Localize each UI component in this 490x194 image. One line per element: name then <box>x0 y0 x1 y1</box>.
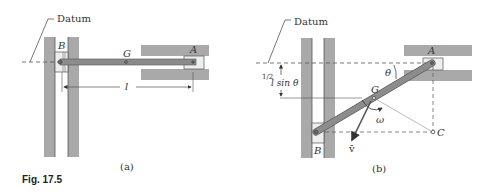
point-c <box>431 130 435 134</box>
panel-b: Datum 1/2 l sin θ θ ω v̄ B G A C (b) <box>256 16 472 174</box>
rod <box>60 59 196 65</box>
theta-label: θ <box>385 67 391 78</box>
label-a: A <box>427 45 435 56</box>
length-label: l <box>125 81 128 92</box>
label-b: B <box>57 40 65 51</box>
label-c: C <box>437 127 445 138</box>
figure-caption: Fig. 17.5 <box>22 174 62 185</box>
label-a: A <box>189 44 197 55</box>
height-label: l sin θ <box>271 78 299 88</box>
panel-b-label: (b) <box>372 163 386 174</box>
pin-a <box>431 62 434 65</box>
panel-a: Datum B G A l (a) <box>22 13 209 172</box>
panel-a-label: (a) <box>120 161 134 172</box>
pin-a <box>192 61 195 64</box>
label-g: G <box>123 48 131 59</box>
left-wall-outer <box>44 37 55 157</box>
datum-leader <box>268 20 291 63</box>
left-wall-inner <box>68 37 79 157</box>
label-b: B <box>313 145 321 156</box>
label-g: G <box>371 84 379 95</box>
theta-arc <box>394 65 396 79</box>
omega-label: ω <box>376 114 384 125</box>
pin-b <box>58 60 62 64</box>
center-g <box>373 97 376 100</box>
top-guide-upper <box>141 45 209 56</box>
figure-17-5: Datum B G A l (a) Fig. 17.5 Datum <box>0 0 490 194</box>
top-guide-upper <box>404 45 472 56</box>
datum-label: Datum <box>294 16 328 27</box>
pin-b <box>314 130 318 134</box>
velocity-label: v̄ <box>348 143 355 154</box>
datum-label: Datum <box>57 13 91 24</box>
top-guide-lower <box>141 69 209 80</box>
